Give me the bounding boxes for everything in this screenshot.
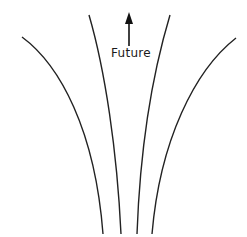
outer-left-curve <box>22 37 103 234</box>
outer-right-curve <box>152 38 236 234</box>
up-arrow-icon <box>125 12 133 46</box>
future-label: Future <box>111 46 151 60</box>
diagram-canvas <box>0 0 247 237</box>
